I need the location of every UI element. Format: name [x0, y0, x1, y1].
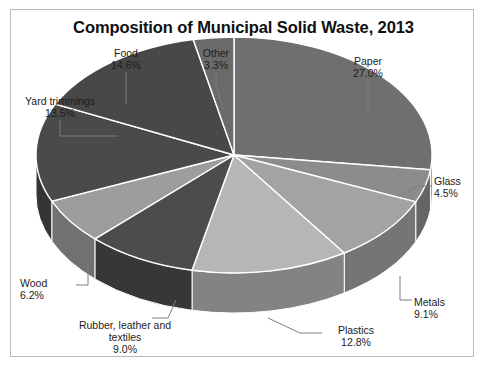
slice-label-wood-name: Wood — [20, 277, 80, 289]
slice-label-paper-value: 27.0% — [330, 67, 406, 79]
slice-label-paper-name: Paper — [330, 55, 406, 67]
chart-figure: Composition of Municipal Solid Waste, 20… — [0, 0, 487, 368]
slice-label-food-name: Food — [88, 47, 164, 59]
slice-label-yard-trimmings-value: 13.5% — [10, 107, 110, 119]
slice-label-yard-trimmings-name: Yard trimmings — [10, 95, 110, 107]
slice-label-plastics: Plastics 12.8% — [325, 324, 387, 348]
slice-label-wood-value: 6.2% — [20, 289, 80, 301]
slice-label-metals-name: Metals — [414, 296, 470, 308]
leader-line-metals — [400, 276, 412, 300]
slice-label-yard-trimmings: Yard trimmings 13.5% — [10, 95, 110, 119]
leader-line-plastics — [268, 318, 322, 333]
slice-label-glass-value: 4.5% — [434, 187, 482, 199]
slice-label-metals: Metals 9.1% — [414, 296, 470, 320]
slice-label-other-value: 3.3% — [180, 59, 252, 71]
slice-label-rubber-leather-textiles-value: 9.0% — [55, 343, 195, 355]
slice-label-rubber-leather-textiles: Rubber, leather and textiles 9.0% — [55, 319, 195, 355]
slice-label-paper: Paper 27.0% — [330, 55, 406, 79]
slice-label-other-name: Other — [180, 47, 252, 59]
slice-label-rubber-leather-textiles-name2: textiles — [55, 331, 195, 343]
slice-label-food: Food 14.6% — [88, 47, 164, 71]
slice-label-plastics-value: 12.8% — [325, 336, 387, 348]
slice-label-glass: Glass 4.5% — [434, 175, 482, 199]
slice-label-rubber-leather-textiles-name: Rubber, leather and — [55, 319, 195, 331]
slice-label-wood: Wood 6.2% — [20, 277, 80, 301]
slice-label-glass-name: Glass — [434, 175, 482, 187]
slice-label-metals-value: 9.1% — [414, 308, 470, 320]
slice-label-plastics-name: Plastics — [325, 324, 387, 336]
slice-label-food-value: 14.6% — [88, 59, 164, 71]
slice-label-other: Other 3.3% — [180, 47, 252, 71]
